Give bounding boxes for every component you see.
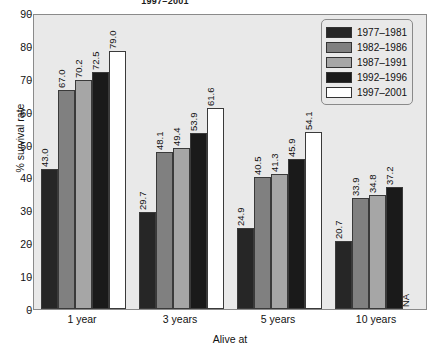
bar: 33.9 <box>352 198 369 309</box>
bar-group: 29.748.149.453.961.6 <box>132 15 230 309</box>
legend-item-label: 1997–2001 <box>357 87 407 98</box>
x-axis-tick-label: 3 years <box>163 313 197 325</box>
y-axis-tick-mark <box>28 113 32 114</box>
legend-color-swatch <box>326 42 352 53</box>
y-axis-tick-mark <box>28 277 32 278</box>
legend-item-label: 1987–1991 <box>357 57 407 68</box>
bar-value-label: 61.6 <box>205 87 216 106</box>
bar-value-label: 37.2 <box>384 167 395 186</box>
x-axis-tick-label: 10 years <box>356 313 396 325</box>
bar-value-label: 70.2 <box>73 59 84 78</box>
bar-group: 24.940.541.345.954.1 <box>230 15 328 309</box>
x-axis-tick-label: 5 years <box>261 313 295 325</box>
bar-value-label: 24.9 <box>235 207 246 226</box>
bar: 54.1 <box>305 132 322 309</box>
legend-color-swatch <box>326 27 352 38</box>
y-axis-tick-mark <box>28 80 32 81</box>
bar-value-label: 29.7 <box>137 191 148 210</box>
legend-item[interactable]: 1977–1981 <box>326 25 407 39</box>
bar: 40.5 <box>254 177 271 309</box>
bar: 61.6 <box>207 108 224 309</box>
bar-value-label: 49.4 <box>171 127 182 146</box>
bar-value-label: 41.3 <box>269 154 280 173</box>
chart-super-title: 1997–2001 <box>0 0 330 4</box>
bar-value-label: 54.1 <box>303 112 314 131</box>
bar-group: 43.067.070.272.579.0 <box>34 15 132 309</box>
bar-value-label: NA <box>400 294 411 307</box>
bar: 48.1 <box>156 152 173 309</box>
y-axis-tick-mark <box>28 47 32 48</box>
bar: 43.0 <box>41 169 58 309</box>
y-axis-tick-mark <box>28 310 32 311</box>
y-axis-title: % survival rate <box>14 68 26 208</box>
legend-item[interactable]: 1992–1996 <box>326 70 407 84</box>
legend: 1977–19811982–19861987–19911992–19961997… <box>321 19 413 105</box>
bar-value-label: 34.8 <box>367 175 378 194</box>
y-axis-tick-mark <box>28 244 32 245</box>
bar-value-label: 72.5 <box>90 52 101 71</box>
bar: 72.5 <box>92 72 109 309</box>
legend-item-label: 1977–1981 <box>357 27 407 38</box>
x-axis-title: Alive at <box>33 333 427 345</box>
bar-value-label: 43.0 <box>39 148 50 167</box>
legend-color-swatch <box>326 72 352 83</box>
legend-item-label: 1982–1986 <box>357 42 407 53</box>
legend-item[interactable]: 1982–1986 <box>326 40 407 54</box>
bar: 67.0 <box>58 90 75 309</box>
y-axis-tick-mark <box>28 178 32 179</box>
y-axis-tick-mark <box>28 211 32 212</box>
bar-value-label: 20.7 <box>333 221 344 240</box>
bar-value-label: 45.9 <box>286 139 297 158</box>
bar: 41.3 <box>271 174 288 309</box>
bar-value-label: 53.9 <box>188 112 199 131</box>
y-axis: % survival rate 0102030405060708090 <box>0 14 32 310</box>
bar-value-label: 79.0 <box>107 30 118 49</box>
legend-color-swatch <box>326 57 352 68</box>
bar: 70.2 <box>75 80 92 309</box>
survival-rate-bar-chart: 1997–2001 % survival rate 01020304050607… <box>0 0 429 354</box>
bar: 20.7 <box>335 241 352 309</box>
legend-item[interactable]: 1997–2001 <box>326 85 407 99</box>
y-axis-tick-mark <box>28 14 32 15</box>
bar: 45.9 <box>288 159 305 309</box>
bar: 53.9 <box>190 133 207 309</box>
legend-item[interactable]: 1987–1991 <box>326 55 407 69</box>
bar: 79.0 <box>109 51 126 309</box>
bar-value-label: 33.9 <box>350 178 361 197</box>
y-axis-tick-mark <box>28 146 32 147</box>
bar: 49.4 <box>173 148 190 309</box>
bar-value-label: 67.0 <box>56 70 67 89</box>
bar: 37.2 <box>386 187 403 309</box>
x-axis-tick-label: 1 year <box>67 313 96 325</box>
legend-color-swatch <box>326 87 352 98</box>
bar: 24.9 <box>237 228 254 309</box>
legend-item-label: 1992–1996 <box>357 72 407 83</box>
bar-value-label: 40.5 <box>252 156 263 175</box>
bar: 29.7 <box>139 212 156 309</box>
bar-value-label: 48.1 <box>154 131 165 150</box>
bar: 34.8 <box>369 195 386 309</box>
